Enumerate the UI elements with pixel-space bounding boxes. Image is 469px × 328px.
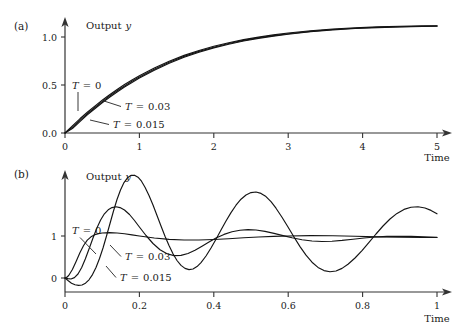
panel-b-xtick-label-5: 1 [434,300,440,311]
panel-a-ytick-label-2: 1.0 [42,32,57,43]
panel-b-annotation-0: T=0 [72,225,101,236]
panel-a-xtick-label-0: 0 [62,141,68,152]
panel-a-xtick-label-3: 3 [285,141,291,152]
panel-b-leader-1 [110,245,121,257]
panel-a-curve-T0015 [65,26,437,133]
panel-a-curve-T003 [65,26,437,133]
panel-b: (b) 0 1 0 0.2 0.4 0.6 0.8 1 [14,168,452,324]
panel-b-annotation-2: T=0.015 [120,272,172,283]
panel-a-annotation-2: T=0.015 [113,119,165,130]
panel-b-y-axis-title-word: Output [86,171,122,182]
panel-a-xtick-label-5: 5 [434,141,440,152]
panel-a-x-axis-title: Time [424,152,449,163]
panel-b-ytick-label-1: 1 [51,231,57,242]
panel-a-xtick-label-2: 2 [211,141,217,152]
panel-a-xtick-label-1: 1 [136,141,142,152]
panel-a: (a) 0.0 0.5 1.0 0 1 2 3 4 [14,17,452,163]
figure-svg: (a) 0.0 0.5 1.0 0 1 2 3 4 [0,0,469,328]
panel-a-y-axis-title-word: Output [86,20,122,31]
panel-a-y-axis-title: Outputy [86,20,132,31]
panel-a-xtick-label-4: 4 [360,141,366,152]
panel-a-leader-1 [104,101,121,107]
panel-b-label: (b) [14,168,29,180]
panel-b-leader-2 [106,266,116,278]
panel-a-annotation-0: T=0 [72,80,101,91]
panel-a-curve-T0 [65,26,437,133]
panel-a-annotation-1: T=0.03 [125,101,170,112]
figure-container: (a) 0.0 0.5 1.0 0 1 2 3 4 [0,0,469,328]
panel-b-xtick-label-2: 0.4 [206,300,221,311]
panel-b-ytick-label-0: 0 [51,273,57,284]
panel-b-x-axis-title: Time [424,313,449,324]
panel-a-ytick-label-1: 0.5 [42,80,57,91]
panel-b-xtick-label-4: 0.8 [355,300,370,311]
panel-a-ytick-label-0: 0.0 [42,128,57,139]
panel-b-annotation-1: T=0.03 [125,251,170,262]
panel-a-label: (a) [14,20,28,32]
panel-b-curve-T003 [65,207,437,279]
panel-b-xtick-label-3: 0.6 [281,300,296,311]
panel-b-y-axis-title: Outputy [86,171,132,182]
panel-a-y-axis-symbol: y [125,20,132,31]
panel-a-leader-2 [90,120,109,125]
panel-b-xtick-label-0: 0 [62,300,68,311]
panel-b-xtick-label-1: 0.2 [132,300,147,311]
